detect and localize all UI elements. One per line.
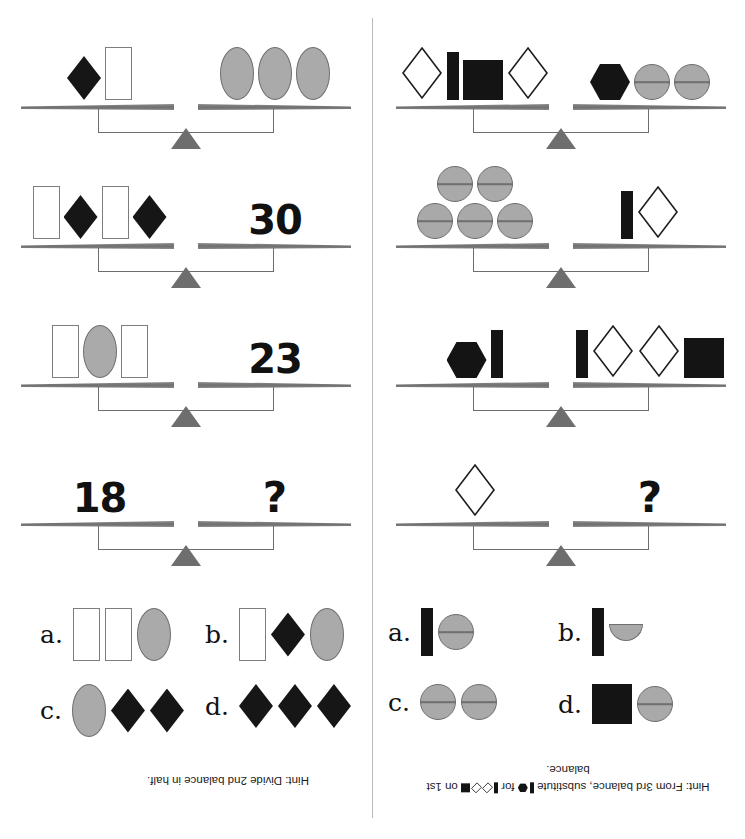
hint-glyph-black-bar [530, 782, 534, 793]
shape-gray-circle [420, 684, 456, 720]
shape-white-rectangle [121, 325, 148, 378]
shape-white-rectangle [105, 608, 132, 661]
unknown-value-question-mark: ? [638, 479, 662, 517]
hint-middle-word: for [498, 781, 518, 793]
shape-black-bar [447, 52, 459, 100]
right-pan-contents [566, 167, 734, 239]
pan-weight-number: 18 [73, 479, 127, 517]
left-pan-contents [17, 167, 182, 239]
answer-option-c[interactable]: c. [388, 684, 497, 720]
shape-black-diamond [271, 613, 305, 657]
balance-scale-1 [21, 18, 351, 146]
fulcrum-triangle-icon [546, 545, 576, 566]
right-pan-contents: ? [566, 445, 734, 517]
shape-white-rectangle [105, 47, 132, 100]
shape-gray-circle [674, 64, 710, 100]
shape-white-diamond [401, 46, 443, 100]
answer-option-a[interactable]: a. [40, 608, 171, 661]
shape-white-rectangle [102, 186, 129, 239]
left-puzzle-panel: 302318?a.b.c.d.Hint: Divide 2nd balance … [0, 0, 372, 839]
balance-scale-2 [396, 157, 726, 285]
balance-scale-1 [396, 18, 726, 146]
answer-option-label: b. [558, 620, 582, 645]
balance-scale-2: 30 [21, 157, 351, 285]
answer-row: a.b. [0, 600, 372, 676]
shape-black-square [463, 60, 503, 100]
hint-glyph-white-diamond [482, 782, 493, 793]
right-puzzle-panel: ?a.b.c.d.Hint: From 3rd balance, substit… [373, 0, 745, 839]
shape-gray-oval [296, 47, 330, 100]
fulcrum-triangle-icon [171, 128, 201, 149]
answer-row: c.d. [0, 676, 372, 752]
answer-row: a.b. [373, 600, 745, 676]
shape-gray-circle [497, 203, 533, 239]
shape-gray-oval [310, 608, 344, 661]
answer-option-b[interactable]: b. [558, 608, 643, 656]
answer-option-shapes [421, 608, 474, 656]
answer-option-shapes [420, 684, 497, 720]
hint-glyph-black-square [461, 783, 470, 792]
shape-white-diamond [637, 185, 679, 239]
left-pan-contents [392, 445, 557, 517]
shape-black-diamond [278, 684, 312, 728]
answer-option-shapes [72, 684, 184, 737]
hint-glyph-black-hexagon [518, 783, 528, 792]
hint-glyph-group-target [461, 782, 498, 793]
answer-option-b[interactable]: b. [205, 608, 344, 661]
answer-option-d[interactable]: d. [205, 684, 351, 728]
fulcrum-triangle-icon [546, 406, 576, 427]
shape-gray-circle [461, 684, 497, 720]
answer-option-d[interactable]: d. [558, 684, 673, 724]
shape-black-bar [576, 330, 588, 378]
shape-gray-circle [457, 203, 493, 239]
left-pan-contents: 18 [17, 445, 182, 517]
answer-option-label: d. [558, 692, 582, 717]
fulcrum-triangle-icon [546, 128, 576, 149]
hint-label: Hint: Divide 2nd balance in half. [147, 775, 309, 787]
shape-black-hexagon [447, 342, 487, 378]
fulcrum-triangle-icon [171, 267, 201, 288]
answer-option-label: c. [388, 690, 410, 715]
shape-gray-oval [137, 608, 171, 661]
shape-gray-circle [438, 614, 474, 650]
hint-glyph-white-diamond [471, 782, 482, 793]
hint-text: Hint: Divide 2nd balance in half. [108, 772, 348, 789]
hint-glyph-black-bar [494, 782, 498, 793]
answer-option-label: a. [388, 620, 411, 645]
right-pan-contents: ? [191, 445, 359, 517]
shape-black-bar [592, 608, 604, 656]
shape-row [417, 203, 533, 239]
left-pan-contents [392, 306, 557, 378]
shape-black-bar [491, 330, 503, 378]
shape-white-rectangle [33, 186, 60, 239]
shape-gray-oval [220, 47, 254, 100]
answer-option-label: b. [205, 622, 229, 647]
shape-white-diamond [507, 46, 549, 100]
answer-option-label: a. [40, 622, 63, 647]
shape-white-rectangle [52, 325, 79, 378]
shape-white-rectangle [73, 608, 100, 661]
left-pan-contents [392, 167, 557, 239]
shape-gray-circle [437, 166, 473, 202]
answer-option-shapes [592, 684, 673, 724]
shape-gray-half-circle [609, 624, 643, 641]
answer-choices: a.b.c.d. [373, 600, 745, 752]
hint-text: Hint: From 3rd balance, substitute for o… [425, 762, 711, 795]
shape-gray-oval [72, 684, 106, 737]
shape-black-square [684, 338, 724, 378]
answer-option-a[interactable]: a. [388, 608, 474, 656]
balance-scale-4: ? [396, 435, 726, 563]
shape-row [437, 166, 513, 202]
shape-black-diamond [239, 684, 273, 728]
balance-scale-4: 18? [21, 435, 351, 563]
right-pan-contents [566, 28, 734, 100]
shape-white-diamond [454, 463, 496, 517]
right-pan-contents: 30 [191, 167, 359, 239]
hint-label: Hint: From 3rd balance, substitute [534, 781, 710, 793]
answer-option-label: d. [205, 694, 229, 719]
answer-option-label: c. [40, 698, 62, 723]
answer-option-c[interactable]: c. [40, 684, 184, 737]
shape-black-hexagon [590, 64, 630, 100]
unknown-value-question-mark: ? [263, 479, 287, 517]
answer-option-shapes [239, 608, 344, 661]
